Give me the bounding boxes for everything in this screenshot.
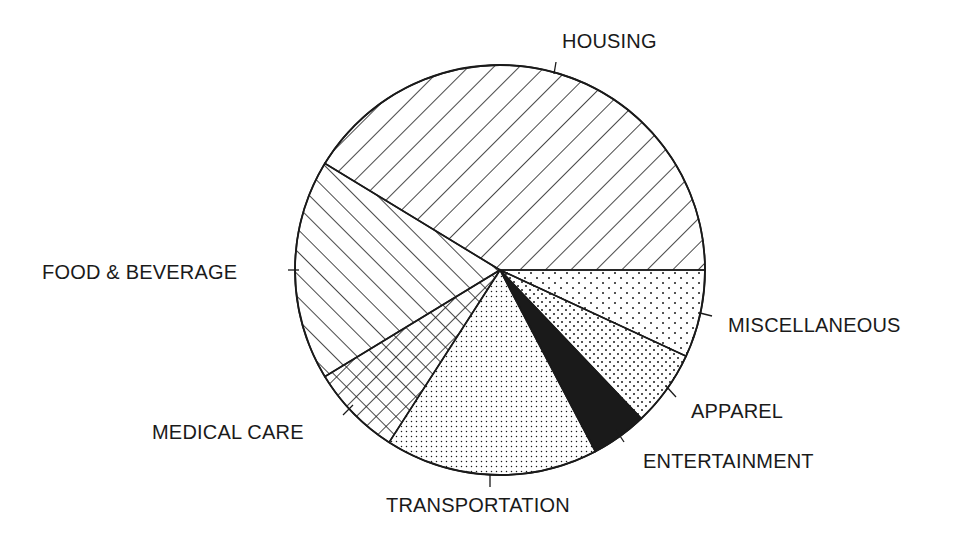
slice-label: HOUSING xyxy=(562,30,657,52)
leader-tick xyxy=(666,386,676,397)
slice-label: APPAREL xyxy=(691,400,783,422)
slice-label: FOOD & BEVERAGE xyxy=(42,261,237,283)
slice-label: ENTERTAINMENT xyxy=(643,450,814,472)
slice-label: TRANSPORTATION xyxy=(386,494,570,516)
slice-label: MEDICAL CARE xyxy=(152,421,304,443)
leader-tick xyxy=(700,313,712,316)
slice-label: MISCELLANEOUS xyxy=(728,314,901,336)
pie-chart: MISCELLANEOUSAPPARELENTERTAINMENTTRANSPO… xyxy=(0,0,959,543)
pie-slices xyxy=(295,65,705,475)
